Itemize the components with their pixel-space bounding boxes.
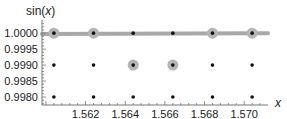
plot-area: [42, 28, 268, 99]
y-tick-label: 0.9990: [4, 59, 38, 71]
lattice-point: [52, 31, 56, 35]
lattice-point: [171, 95, 175, 99]
lattice-point: [52, 95, 56, 99]
y-tick-label: 0.9980: [4, 91, 38, 103]
lattice-point: [250, 31, 254, 35]
x-tick-label: 1.570: [230, 108, 258, 119]
lattice-point: [171, 31, 175, 35]
x-tick-label: 1.562: [72, 108, 100, 119]
chart: 1.00000.99950.99900.99850.99801.5621.564…: [0, 0, 287, 119]
lattice-point: [211, 31, 215, 35]
lattice-point: [92, 63, 96, 67]
lattice-point: [250, 95, 254, 99]
lattice-point: [171, 63, 175, 67]
sin-curve: [42, 33, 268, 34]
x-axis-label: x: [274, 96, 282, 110]
lattice-point: [92, 31, 96, 35]
x-tick-label: 1.566: [151, 108, 179, 119]
y-tick-label: 1.0000: [4, 27, 38, 39]
lattice-point: [92, 95, 96, 99]
lattice-point: [131, 63, 135, 67]
lattice-point: [131, 31, 135, 35]
x-tick-label: 1.568: [191, 108, 219, 119]
lattice-point: [52, 63, 56, 67]
y-axis-label: sin(x): [26, 4, 55, 18]
x-tick-label: 1.564: [111, 108, 139, 119]
y-tick-label: 0.9995: [4, 43, 38, 55]
lattice-point: [211, 63, 215, 67]
y-tick-label: 0.9985: [4, 75, 38, 87]
lattice-point: [211, 95, 215, 99]
lattice-point: [250, 63, 254, 67]
lattice-point: [131, 95, 135, 99]
